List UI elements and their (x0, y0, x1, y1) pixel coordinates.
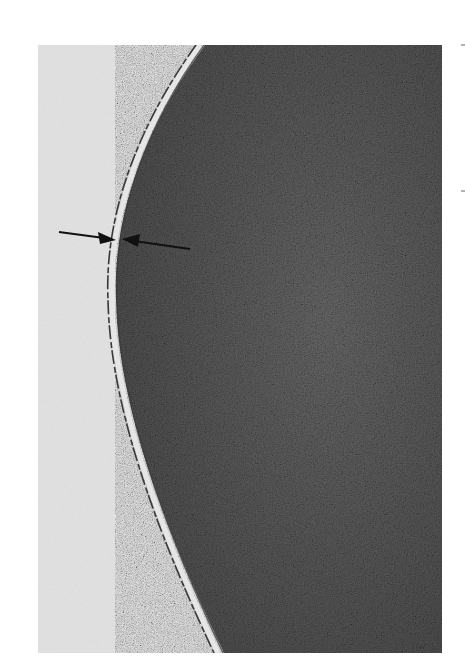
micrograph-figure (0, 0, 465, 672)
